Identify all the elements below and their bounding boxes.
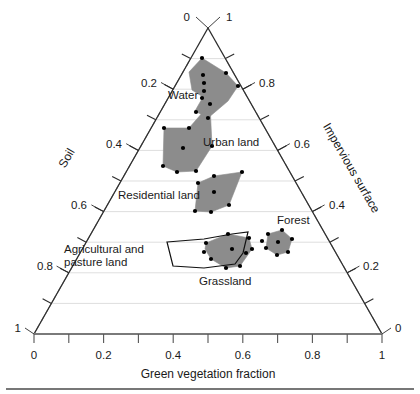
apex-right-tick-label: 1 — [226, 11, 232, 23]
data-point — [240, 170, 244, 174]
apex-leaders — [196, 17, 220, 28]
cluster-label-residential-land: Residential land — [118, 189, 200, 201]
cluster-label-water: Water — [168, 89, 198, 101]
data-point — [175, 170, 179, 174]
data-point — [264, 246, 268, 250]
left-tick-label-0.4: 0.4 — [106, 138, 123, 150]
cluster-label-forest: Forest — [277, 214, 310, 226]
left-axis-title: Soil — [55, 146, 77, 170]
right-tick-label-0.6: 0.6 — [294, 138, 310, 150]
bottom-tick-label-0.6: 0.6 — [235, 349, 251, 361]
cluster-label-agricultural-line2: pasture land — [64, 256, 127, 268]
data-point — [193, 209, 197, 213]
bottom-tick-label-0.4: 0.4 — [165, 349, 182, 361]
data-point — [200, 96, 204, 100]
left-tick-label-0.8: 0.8 — [37, 260, 53, 272]
data-point — [290, 237, 294, 241]
data-point — [276, 240, 280, 244]
left-tick-label-0.2: 0.2 — [141, 77, 157, 89]
cluster-label-agricultural-line1: Agricultural and — [64, 243, 144, 255]
data-point — [260, 239, 264, 243]
right-tick-label-0.8: 0.8 — [259, 77, 275, 89]
data-point — [204, 241, 208, 245]
data-point — [227, 203, 231, 207]
ternary-plot-svg: 0 1 0.2 0.4 0.6 0.8 1 0.8 0.6 0.4 0.2 0 … — [0, 0, 420, 394]
data-point — [266, 232, 270, 236]
data-point — [226, 232, 230, 236]
data-point — [194, 110, 198, 114]
data-point — [275, 253, 279, 257]
bottom-tick-label-0.8: 0.8 — [304, 349, 320, 361]
data-point — [202, 81, 206, 85]
data-point — [286, 250, 290, 254]
data-point — [181, 146, 185, 150]
ternary-diagram-figure: 0 1 0.2 0.4 0.6 0.8 1 0.8 0.6 0.4 0.2 0 … — [0, 0, 420, 394]
data-point — [244, 251, 248, 255]
bottom-tick-label-0.2: 0.2 — [96, 349, 112, 361]
cluster-label-grassland: Grassland — [199, 275, 251, 287]
left-axis-label-leaders — [25, 83, 173, 335]
data-point — [202, 250, 206, 254]
right-tick-label-0: 0 — [395, 322, 401, 334]
cluster-hull-residential-land — [195, 172, 242, 212]
data-point — [250, 247, 254, 251]
data-point — [230, 247, 234, 251]
bottom-tick-label-1: 1 — [379, 349, 385, 361]
data-point — [162, 126, 166, 130]
data-point — [247, 236, 251, 240]
data-point — [224, 71, 228, 75]
data-point — [224, 266, 228, 270]
data-point — [202, 89, 206, 93]
data-point — [187, 126, 191, 130]
cluster-label-urban-land: Urban land — [203, 136, 259, 148]
bottom-tick-label-0: 0 — [31, 349, 37, 361]
right-tick-label-0.4: 0.4 — [329, 199, 346, 211]
data-point — [209, 210, 213, 214]
bottom-axis-title: Green vegetation fraction — [141, 367, 276, 381]
right-tick-label-0.2: 0.2 — [363, 260, 379, 272]
data-point — [200, 56, 204, 60]
left-tick-label-1: 1 — [15, 322, 21, 334]
left-tick-label-0.6: 0.6 — [71, 199, 87, 211]
data-point — [238, 264, 242, 268]
data-point — [209, 257, 213, 261]
data-point — [280, 228, 284, 232]
cluster-hull-grassland — [205, 234, 252, 268]
data-point — [208, 102, 212, 106]
data-point — [212, 190, 216, 194]
data-point — [194, 169, 198, 173]
apex-left-tick-label: 0 — [184, 11, 190, 23]
data-point — [212, 174, 216, 178]
data-point — [201, 73, 205, 77]
data-point — [206, 116, 210, 120]
data-point — [161, 164, 165, 168]
data-point — [196, 181, 200, 185]
bottom-axis-ticks — [34, 334, 382, 343]
